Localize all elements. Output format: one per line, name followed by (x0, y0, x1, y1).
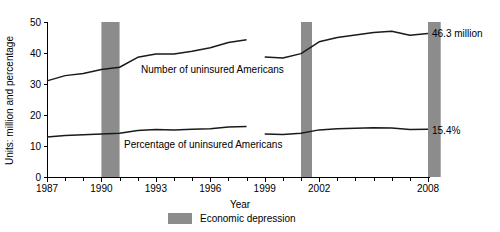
uninsured-americans-line-chart: 01020304050 1987199019931996199920022008… (0, 0, 500, 232)
x-tick-label: 1999 (254, 183, 277, 194)
x-tick-label: 2008 (417, 183, 440, 194)
y-tick-label: 30 (30, 79, 42, 90)
chart-background (0, 0, 500, 232)
x-tick-label: 1996 (199, 183, 222, 194)
number-callout-label: 46.3 million (432, 28, 483, 39)
y-tick-label: 40 (30, 48, 42, 59)
chart-legend: Economic depression (168, 213, 296, 224)
number-series-label: Number of uninsured Americans (141, 64, 284, 75)
legend-label-economic-depression: Economic depression (200, 213, 296, 224)
y-axis-title: Units: million and percentage (4, 36, 15, 165)
legend-swatch-economic-depression (168, 213, 192, 224)
x-tick-label: 1990 (90, 183, 113, 194)
recession-band-2008 (428, 22, 441, 177)
x-axis-title: Year (230, 199, 251, 210)
x-tick-label: 1987 (36, 183, 59, 194)
percentage-series-label: Percentage of uninsured Americans (124, 139, 282, 150)
y-tick-label: 10 (30, 141, 42, 152)
recession-band-1990 (101, 22, 119, 177)
recession-band-2001 (301, 22, 312, 177)
x-tick-label: 1993 (145, 183, 168, 194)
x-tick-label: 2002 (308, 183, 331, 194)
y-tick-label: 20 (30, 110, 42, 121)
y-tick-label: 50 (30, 17, 42, 28)
y-tick-label: 0 (35, 172, 41, 183)
percentage-callout-label: 15.4% (432, 125, 460, 136)
chart-container: 01020304050 1987199019931996199920022008… (0, 0, 500, 232)
